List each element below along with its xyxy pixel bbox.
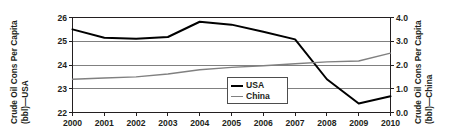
right-tick-3.0: 3.0	[396, 36, 420, 46]
x-tick-2005: 2005	[217, 118, 247, 128]
left-tick-25: 25	[45, 36, 67, 46]
right-tick-2.0: 2.0	[396, 60, 420, 70]
right-tick-0.0: 0.0	[396, 108, 420, 118]
x-tick-2008: 2008	[312, 118, 342, 128]
right-tick-4.0: 4.0	[396, 13, 420, 23]
x-tick-2007: 2007	[280, 118, 310, 128]
x-tick-2002: 2002	[121, 118, 151, 128]
legend-label-usa: USA	[246, 80, 264, 91]
left-tick-26: 26	[45, 13, 67, 23]
x-tick-2006: 2006	[248, 118, 278, 128]
x-tick-2000: 2000	[58, 118, 88, 128]
legend-swatch-china-icon	[231, 96, 243, 97]
chart-container: Crude Oil Cons Per Capita (bbl)—USA Crud…	[0, 0, 459, 140]
left-tick-22: 22	[45, 108, 67, 118]
x-tick-2004: 2004	[185, 118, 215, 128]
x-tick-2010: 2010	[376, 118, 406, 128]
x-tick-2009: 2009	[344, 118, 374, 128]
left-tick-23: 23	[45, 84, 67, 94]
legend-label-china: China	[246, 91, 270, 102]
x-tick-2001: 2001	[89, 118, 119, 128]
left-tick-24: 24	[45, 60, 67, 70]
legend-swatch-usa-icon	[231, 85, 243, 87]
x-tick-2003: 2003	[153, 118, 183, 128]
chart-legend: USA China	[227, 77, 288, 104]
legend-item-usa: USA	[231, 80, 264, 91]
legend-item-china: China	[231, 91, 270, 102]
right-tick-1.0: 1.0	[396, 84, 420, 94]
